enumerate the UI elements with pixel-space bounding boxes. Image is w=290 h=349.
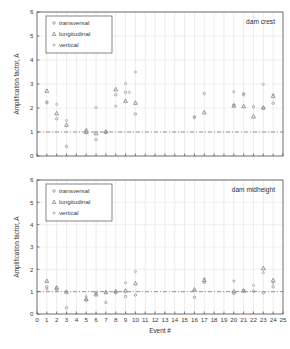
y-axis-tick-label: 4 [30, 56, 34, 63]
series-longitudinal [45, 87, 275, 134]
data-point-vertical [128, 91, 130, 93]
x-axis-tick-label: 25 [280, 316, 287, 323]
y-axis-tick-label: 5 [30, 199, 34, 206]
x-axis-tick-label: 0 [35, 316, 39, 323]
x-axis-tick-label: 10 [132, 316, 139, 323]
x-axis-tick-label: 17 [201, 316, 208, 323]
x-axis-tick-label: 3 [65, 316, 69, 323]
legend-label-longitudinal: longitudinal [59, 30, 90, 37]
series-transversal [46, 281, 275, 309]
y-axis-tick-label: 6 [30, 176, 34, 183]
scatter-plot-dam-crest: 0123456Amplification factor, Adam crestt… [0, 4, 290, 172]
x-axis-title: Event # [149, 327, 171, 334]
legend-label-vertical: vertical [59, 41, 79, 48]
figure-amplification-factor: 0123456Amplification factor, Adam crestt… [0, 0, 290, 349]
x-axis-tick-label: 2 [55, 316, 59, 323]
y-axis-title: Amplification factor, A [13, 216, 21, 278]
legend-label-transversal: transversal [59, 19, 89, 26]
chart-panel-dam-midheight: 0123456012345678910111213141516171819202… [0, 176, 290, 349]
panel-note-label: dam crest [246, 18, 275, 25]
y-axis-title: Amplification factor, A [13, 53, 21, 115]
y-axis-tick-label: 1 [30, 288, 34, 295]
legend-label-longitudinal: longitudinal [59, 198, 90, 205]
plot-area-dam-crest: 0123456Amplification factor, Adam crestt… [0, 4, 290, 172]
x-axis-tick-label: 6 [94, 316, 98, 323]
x-axis-tick-label: 7 [104, 316, 108, 323]
legend-label-vertical: vertical [59, 209, 79, 216]
x-axis-tick-label: 13 [161, 316, 168, 323]
y-axis-tick-label: 4 [30, 221, 34, 228]
x-axis-tick-label: 14 [171, 316, 178, 323]
legend-entry-transversal: transversal [53, 187, 90, 194]
x-axis-tick-label: 9 [124, 316, 128, 323]
x-axis-tick-label: 21 [240, 316, 247, 323]
legend-label-transversal: transversal [59, 187, 89, 194]
y-axis-tick-label: 1 [30, 128, 34, 135]
scatter-plot-dam-midheight: 0123456012345678910111213141516171819202… [0, 176, 290, 349]
series-transversal [46, 91, 275, 147]
series-longitudinal [45, 266, 275, 300]
x-axis-tick-label: 1 [45, 316, 49, 323]
x-axis-tick-label: 20 [230, 316, 237, 323]
y-axis-tick-label: 6 [30, 8, 34, 15]
legend-entry-transversal: transversal [53, 19, 90, 26]
x-axis-tick-label: 18 [211, 316, 218, 323]
y-axis-tick-label: 5 [30, 32, 34, 39]
x-axis-tick-label: 8 [114, 316, 118, 323]
x-axis-tick-label: 5 [84, 316, 88, 323]
plot-area-dam-midheight: 0123456012345678910111213141516171819202… [0, 176, 290, 349]
y-axis-tick-label: 3 [30, 80, 34, 87]
y-axis-tick-label: 2 [30, 266, 34, 273]
y-axis-tick-label: 0 [30, 310, 34, 317]
x-axis-tick-label: 16 [191, 316, 198, 323]
x-axis-tick-label: 24 [270, 316, 277, 323]
x-axis-tick-label: 11 [142, 316, 149, 323]
panel-note-label: dam midheight [232, 186, 275, 194]
x-axis-tick-label: 4 [75, 316, 79, 323]
x-axis-tick-label: 15 [181, 316, 188, 323]
y-axis-tick-label: 0 [30, 152, 34, 159]
series-vertical [46, 271, 274, 298]
x-axis-tick-label: 22 [250, 316, 257, 323]
y-axis-tick-label: 2 [30, 104, 34, 111]
x-axis-tick-label: 19 [221, 316, 228, 323]
x-axis-tick-label: 23 [260, 316, 267, 323]
chart-panel-dam-crest: 0123456Amplification factor, Adam crestt… [0, 4, 290, 172]
series-vertical [46, 71, 274, 134]
x-axis-tick-label: 12 [152, 316, 159, 323]
y-axis-tick-label: 3 [30, 243, 34, 250]
